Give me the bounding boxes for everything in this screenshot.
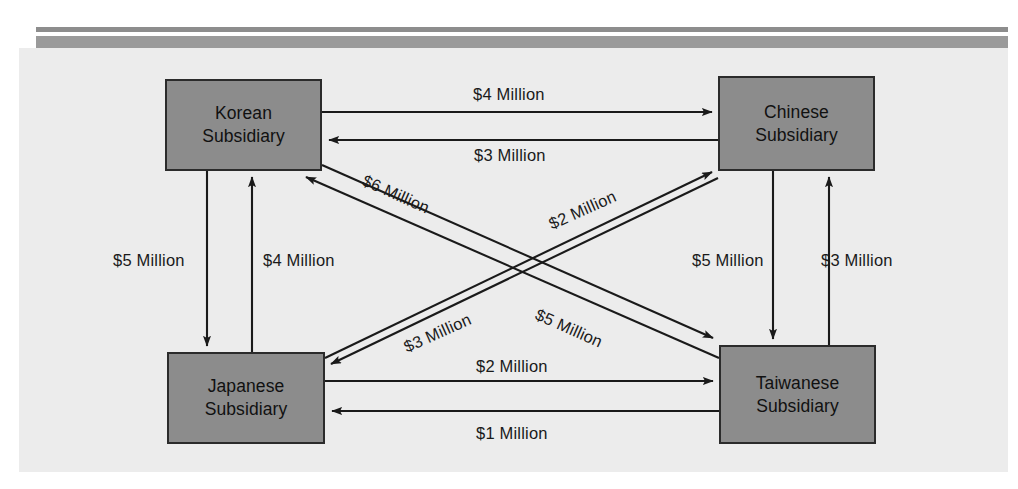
node-taiwanese-line1: Taiwanese — [756, 372, 840, 395]
node-chinese-subsidiary[interactable]: Chinese Subsidiary — [718, 76, 875, 171]
header-rule-thick — [36, 36, 1008, 48]
node-taiwanese-subsidiary[interactable]: Taiwanese Subsidiary — [719, 345, 876, 444]
edge-label-japanese-to-taiwanese: $2 Million — [476, 357, 548, 376]
edge-label-taiwanese-to-chinese: $3 Million — [821, 251, 893, 270]
node-korean-subsidiary[interactable]: Korean Subsidiary — [165, 79, 322, 171]
node-korean-line1: Korean — [215, 102, 272, 125]
diagram-figure: Korean Subsidiary Chinese Subsidiary Jap… — [0, 0, 1018, 489]
node-japanese-line1: Japanese — [208, 375, 285, 398]
edge-label-korean-to-japanese: $5 Million — [113, 251, 185, 270]
edge-label-korean-to-chinese: $4 Million — [473, 85, 545, 104]
edge-label-chinese-to-taiwanese: $5 Million — [692, 251, 764, 270]
node-chinese-line1: Chinese — [764, 101, 829, 124]
edge-label-chinese-to-korean: $3 Million — [474, 146, 546, 165]
node-taiwanese-line2: Subsidiary — [756, 395, 839, 418]
edge-label-taiwanese-to-japanese: $1 Million — [476, 424, 548, 443]
edge-label-japanese-to-korean: $4 Million — [263, 251, 335, 270]
header-rule-thin — [36, 27, 1008, 32]
node-korean-line2: Subsidiary — [202, 125, 285, 148]
node-chinese-line2: Subsidiary — [755, 124, 838, 147]
node-japanese-line2: Subsidiary — [205, 398, 288, 421]
node-japanese-subsidiary[interactable]: Japanese Subsidiary — [167, 352, 325, 444]
